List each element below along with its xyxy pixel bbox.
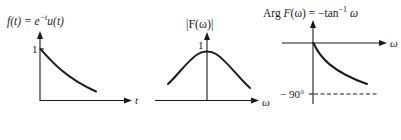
x-axis-arrow-icon bbox=[379, 40, 387, 46]
asymptote-label: − 90° bbox=[280, 88, 304, 100]
y-axis-arrow-icon bbox=[310, 20, 316, 28]
fourier-transform-figure: f(t) = e−tu(t) 1 t |F(ω)| 1 ω bbox=[0, 0, 401, 140]
x-axis-label: t bbox=[135, 94, 139, 106]
x-axis-arrow-icon bbox=[251, 98, 259, 104]
panel-magnitude: |F(ω)| 1 ω bbox=[155, 17, 270, 108]
panel-title-phase: Arg F(ω) = −tan−1 ω bbox=[263, 5, 358, 20]
x-axis-label: ω bbox=[390, 37, 398, 49]
panel-time-domain: f(t) = e−tu(t) 1 t bbox=[7, 13, 139, 106]
panel-title-magnitude: |F(ω)| bbox=[186, 17, 213, 31]
x-axis-arrow-icon bbox=[124, 98, 132, 104]
panel-phase: Arg F(ω) = −tan−1 ω ω − 90° bbox=[263, 5, 398, 104]
panel-title-time-domain: f(t) = e−tu(t) bbox=[7, 13, 64, 28]
y-tick-label: 1 bbox=[32, 43, 38, 55]
decay-curve bbox=[41, 49, 97, 92]
y-axis-arrow-icon bbox=[37, 31, 43, 39]
phase-curve bbox=[314, 43, 368, 84]
y-tick-label: 1 bbox=[198, 39, 204, 51]
magnitude-curve bbox=[168, 51, 250, 88]
x-axis-label: ω bbox=[262, 96, 270, 108]
y-axis-arrow-icon bbox=[204, 32, 210, 40]
